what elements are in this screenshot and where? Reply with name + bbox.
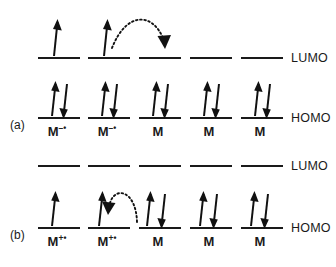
panel-a-col3-homo-electron-pair [152,81,169,119]
panel-a-homo-label: HOMO [291,111,331,125]
panel-a: (a) [10,19,331,139]
panel-b-homo-label: HOMO [291,221,331,235]
panel-b-electron-transfer-arrow [102,193,137,222]
panel-b-col3-homo-electron-pair [146,191,166,229]
panel-a-label: (a) [10,118,25,132]
panel-b-col3-species: M [153,234,164,249]
panel-a-col4-species: M [204,124,215,139]
orbital-energy-diagram: (a) [0,0,336,267]
panel-b-col4-species: M [204,234,215,249]
panel-b-label: (b) [10,228,25,242]
panel-b-col5-species: M [255,234,266,249]
panel-a-col1-homo-electron-pair [51,81,68,119]
panel-b-species-labels: M+• M+• M M M [48,233,266,249]
panel-b-col1-homo-electron-up [51,191,59,226]
panel-a-species-labels: M–• M–• M M M [48,123,266,139]
panel-b-col1-species: M+• [48,233,67,249]
panel-a-electron-transfer-arrow [112,20,171,49]
panel-a-col5-homo-electron-pair [254,81,271,119]
panel-a-col3-species: M [153,124,164,139]
panel-a-col1-species: M–• [48,123,67,139]
panel-a-col2-homo-electron-pair [101,81,118,119]
panel-b-col4-homo-electron-pair [199,191,218,229]
panel-b-lumo-label: LUMO [291,159,328,173]
diagram-canvas: (a) [0,0,336,267]
panel-a-lumo-label: LUMO [291,51,328,65]
panel-a-col2-species: M–• [98,123,117,139]
panel-b-col5-homo-electron-pair [250,191,269,229]
panel-b: (b) [10,159,331,249]
panel-a-col4-homo-electron-pair [203,81,220,119]
panel-a-col1-lumo-electron-up [53,19,62,56]
panel-a-col2-lumo-electron-up [103,19,112,56]
panel-b-col2-species: M+• [98,233,117,249]
panel-a-col5-species: M [255,124,266,139]
